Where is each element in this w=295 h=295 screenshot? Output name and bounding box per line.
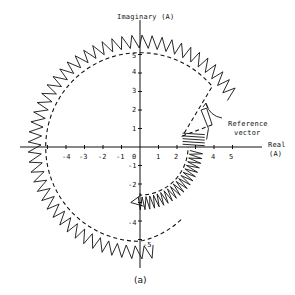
x-tick-0: 0 [132, 153, 136, 161]
y-tick--5: -5 [143, 241, 151, 249]
y-tick--1: -1 [128, 162, 136, 170]
y-tick--2: -2 [128, 181, 136, 189]
y-tick--4: -4 [128, 219, 136, 227]
reference-vector-arrow [206, 104, 222, 118]
x-axis-label-line2: (A) [269, 150, 282, 158]
x-tick-4: 4 [211, 153, 215, 161]
phasor-plot [0, 0, 295, 295]
y-tick-2: 2 [132, 106, 136, 114]
current-trajectory-inner [131, 133, 205, 210]
figure-caption: (a) [134, 275, 147, 285]
x-axis-label-line1: Real [268, 141, 286, 149]
y-tick-3: 3 [132, 87, 136, 95]
y-tick-1: 1 [132, 125, 136, 133]
x-tick--3: -3 [79, 153, 87, 161]
arrow-head-icon [203, 103, 208, 108]
x-tick-5: 5 [229, 153, 233, 161]
annotation-line2: vector [234, 129, 261, 137]
x-tick--2: -2 [98, 153, 106, 161]
y-axis-label: Imaginary (A) [117, 13, 174, 21]
y-tick-5: 5 [132, 52, 136, 60]
x-tick--1: -1 [116, 153, 124, 161]
y-tick-4: 4 [132, 68, 136, 76]
x-tick-1: 1 [156, 153, 160, 161]
annotation-line1: Reference [228, 120, 268, 128]
x-tick-2: 2 [174, 153, 178, 161]
x-tick--4: -4 [62, 153, 70, 161]
